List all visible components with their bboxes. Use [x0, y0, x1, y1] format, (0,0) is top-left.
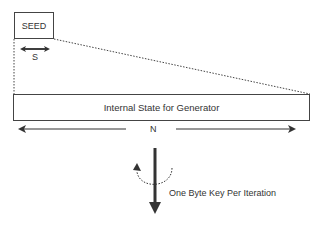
state-size-label: N	[150, 124, 157, 134]
seed-size-label: S	[32, 52, 38, 62]
seed-box: SEED	[14, 12, 54, 39]
output-label: One Byte Key Per Iteration	[169, 188, 276, 198]
output-arrow	[149, 148, 161, 214]
seed-label: SEED	[22, 21, 47, 31]
internal-state-box: Internal State for Generator	[13, 94, 310, 121]
projection-lines	[14, 39, 310, 94]
internal-state-label: Internal State for Generator	[104, 102, 220, 113]
iteration-cycle-icon	[133, 163, 172, 184]
